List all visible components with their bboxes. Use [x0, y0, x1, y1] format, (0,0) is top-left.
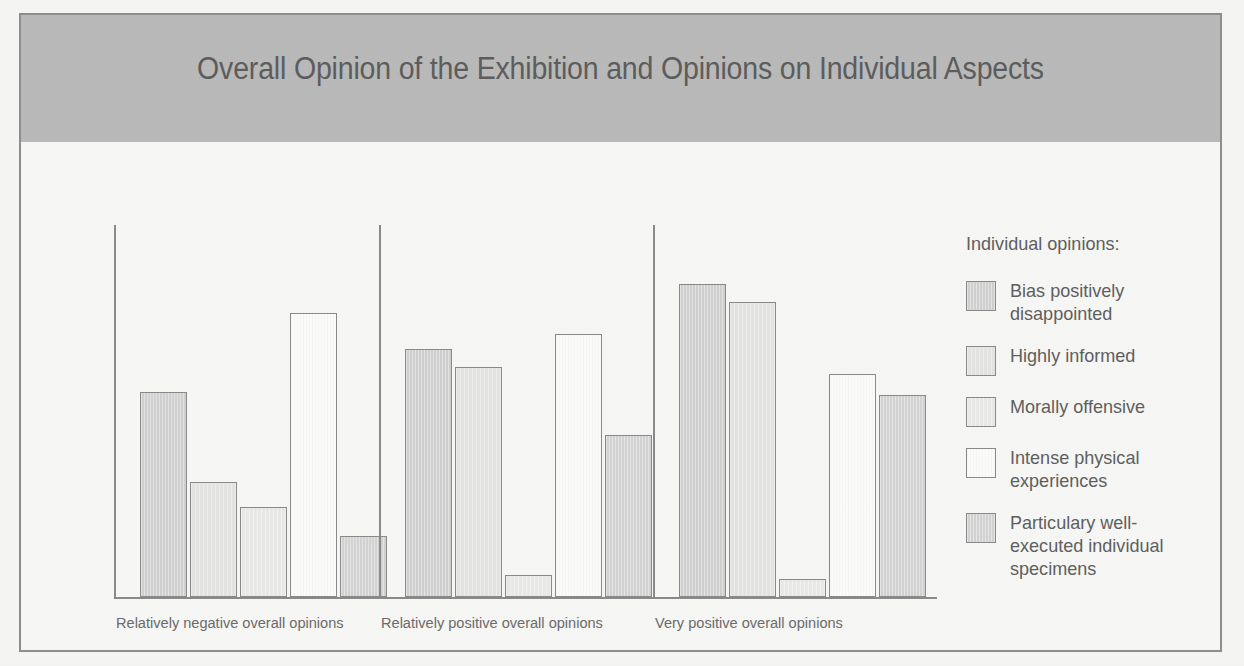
- legend-item[interactable]: Bias positively disappointed: [966, 279, 1216, 325]
- legend-item[interactable]: Morally offensive: [966, 395, 1216, 427]
- plot-area: Relatively negative overall opinionsRela…: [21, 145, 1220, 650]
- legend-item[interactable]: Particulary well-executed individual spe…: [966, 511, 1216, 580]
- legend-item-label: Bias positively disappointed: [1010, 279, 1195, 325]
- x-axis-group-label: Relatively positive overall opinions: [381, 614, 603, 632]
- bar[interactable]: [555, 334, 602, 597]
- legend-item-label: Morally offensive: [1010, 395, 1145, 418]
- chart-legend: Individual opinions: Bias positively dis…: [966, 233, 1216, 599]
- x-axis-baseline: [114, 597, 937, 599]
- chart-figure: Overall Opinion of the Exhibition and Op…: [19, 13, 1222, 652]
- bar[interactable]: [829, 374, 876, 597]
- y-axis-line: [114, 225, 116, 597]
- chart-title: Overall Opinion of the Exhibition and Op…: [69, 51, 1172, 87]
- x-axis-group-label: Very positive overall opinions: [655, 614, 843, 632]
- legend-swatch-icon: [966, 513, 996, 543]
- y-axis-line: [653, 225, 655, 597]
- legend-swatch-icon: [966, 397, 996, 427]
- legend-item-label: Particulary well-executed individual spe…: [1010, 511, 1195, 580]
- x-axis-group-label: Relatively negative overall opinions: [116, 614, 344, 632]
- bar[interactable]: [605, 435, 652, 597]
- bar[interactable]: [879, 395, 926, 597]
- bar[interactable]: [729, 302, 776, 597]
- legend-title: Individual opinions:: [966, 233, 1204, 255]
- bar[interactable]: [240, 507, 287, 597]
- bar[interactable]: [779, 579, 826, 597]
- chart-title-band: Overall Opinion of the Exhibition and Op…: [21, 15, 1220, 145]
- y-axis-line: [379, 225, 381, 597]
- bar[interactable]: [505, 575, 552, 597]
- scanned-page: Overall Opinion of the Exhibition and Op…: [0, 0, 1244, 666]
- legend-item-label: Highly informed: [1010, 344, 1135, 367]
- bar[interactable]: [405, 349, 452, 597]
- legend-swatch-icon: [966, 346, 996, 376]
- bar[interactable]: [190, 482, 237, 597]
- legend-item[interactable]: Highly informed: [966, 344, 1216, 376]
- bar[interactable]: [679, 284, 726, 597]
- legend-swatch-icon: [966, 281, 996, 311]
- bar[interactable]: [140, 392, 187, 597]
- legend-items: Bias positively disappointedHighly infor…: [966, 279, 1216, 580]
- legend-item[interactable]: Intense physical experiences: [966, 446, 1216, 492]
- bar[interactable]: [455, 367, 502, 597]
- legend-swatch-icon: [966, 448, 996, 478]
- bar[interactable]: [290, 313, 337, 597]
- legend-item-label: Intense physical experiences: [1010, 446, 1195, 492]
